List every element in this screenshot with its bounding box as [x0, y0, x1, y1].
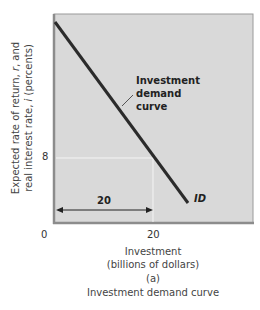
annotation-line: demand	[136, 87, 200, 100]
y-tick-8: 8	[42, 151, 48, 162]
annotation-line: curve	[136, 100, 200, 113]
x-tick-20: 20	[147, 229, 160, 240]
panel-label: (a)	[146, 273, 160, 284]
annotation-line: Investment	[136, 74, 200, 87]
chart-caption: Investment demand curve	[87, 287, 219, 298]
x-axis-title: Investment	[125, 246, 182, 257]
x-tick-0: 0	[41, 229, 47, 240]
curve-annotation: Investment demand curve	[136, 74, 200, 113]
curve-id-label: ID	[194, 193, 206, 204]
x-axis-units: (billions of dollars)	[107, 259, 199, 270]
arrow-value-label: 20	[97, 195, 111, 206]
